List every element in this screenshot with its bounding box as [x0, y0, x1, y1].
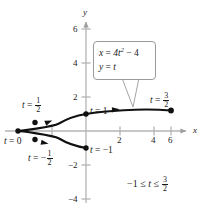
equation-x: x = 4t2 − 4 — [99, 45, 150, 61]
direction-arrow-upper-left — [44, 118, 53, 126]
point-t-one — [83, 111, 88, 116]
y-tick-label-neg-4: −4 — [68, 195, 78, 204]
callout-leader-line — [122, 78, 139, 107]
x-tick-label-2: 2 — [117, 136, 122, 145]
curve-label-t-neg-one: t = −1 — [90, 146, 113, 156]
curve-label-t-one: t = 1 — [90, 107, 108, 117]
y-tick-label-2: 2 — [73, 93, 78, 102]
direction-arrow-lower — [41, 140, 49, 147]
equations-callout: x = 4t2 − 4 y = t — [93, 41, 156, 80]
x-axis-label: x — [193, 126, 197, 135]
domain-annotation: −1 ≤ t ≤ 32 — [127, 176, 168, 193]
x-tick-label-6: 6 — [168, 136, 173, 145]
point-t-neg-half — [32, 137, 37, 142]
point-t-half — [32, 120, 37, 125]
y-tick-label-neg-2: −2 — [68, 161, 78, 170]
y-axis-label: y — [83, 8, 87, 17]
point-t-zero — [15, 128, 20, 133]
equation-y: y = t — [99, 61, 150, 75]
y-tick-label-4: 4 — [73, 59, 78, 68]
curve-label-t-neg-half: t = −12 — [28, 150, 53, 167]
curve-label-t-three-half: t = 32 — [150, 92, 170, 109]
y-tick-label-6: 6 — [73, 25, 78, 34]
parametric-curve-figure: x = 4t2 − 4 y = t x y 2 4 6 6 4 2 −2 −4 … — [0, 0, 207, 208]
x-tick-label-4: 4 — [151, 136, 156, 145]
curve-label-t-half: t = 12 — [22, 97, 42, 114]
point-t-neg-one — [83, 145, 88, 150]
curve-label-t-zero: t = 0 — [4, 137, 22, 147]
